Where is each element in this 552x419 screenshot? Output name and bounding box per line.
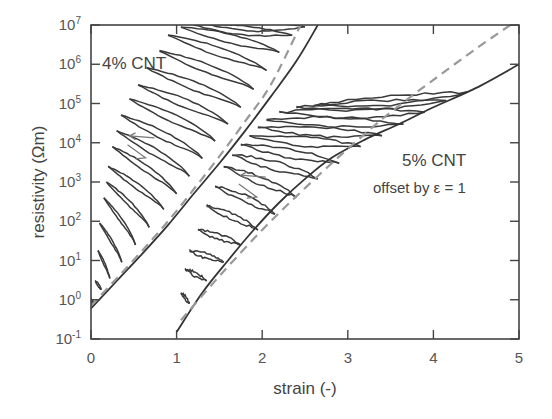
- y-tick-labels: 10-1100101102103104105106107: [55, 15, 81, 347]
- y-tick-label: 103: [59, 172, 82, 190]
- reloading-curve: [160, 51, 254, 89]
- x-tick-label: 0: [87, 349, 95, 366]
- direction-arrow: [241, 175, 266, 177]
- y-tick-label: 10-1: [55, 329, 81, 347]
- y-tick-label: 100: [59, 290, 82, 308]
- annotation-offset: offset by ε = 1: [373, 179, 466, 196]
- y-tick-label: 106: [59, 54, 82, 72]
- y-tick-label: 105: [59, 94, 82, 112]
- reloading-curve: [147, 68, 241, 108]
- x-axis-title: strain (-): [273, 379, 336, 398]
- zigzag-arrow: [128, 145, 146, 159]
- reloading-curve: [112, 147, 176, 194]
- annotation-4pct-cnt: 4% CNT: [102, 54, 166, 73]
- x-tick-label: 5: [515, 349, 523, 366]
- annotation-5pct-cnt: 5% CNT: [402, 151, 466, 170]
- reloading-curve: [106, 182, 149, 227]
- reloading-curve: [130, 99, 216, 141]
- x-tick-label: 1: [172, 349, 180, 366]
- x-tick-label: 4: [429, 349, 437, 366]
- x-tick-label: 3: [344, 349, 352, 366]
- reloading-curve: [185, 269, 206, 281]
- y-tick-label: 104: [59, 133, 82, 151]
- reloading-curve: [100, 223, 122, 262]
- y-axis-title: resistivity (Ωm): [29, 126, 48, 239]
- reloading-curve: [98, 251, 110, 279]
- envelope-line: [177, 64, 519, 332]
- reloading-curve: [241, 144, 339, 163]
- x-tick-label: 2: [258, 349, 266, 366]
- model-fit-line: [181, 25, 511, 320]
- x-tick-labels: 012345: [87, 349, 523, 366]
- reloading-curve: [279, 112, 425, 119]
- chart: 012345 10-1100101102103104105106107 stra…: [0, 0, 552, 419]
- y-tick-label: 107: [59, 15, 82, 33]
- y-tick-label: 101: [59, 251, 82, 269]
- y-tick-label: 102: [59, 211, 82, 229]
